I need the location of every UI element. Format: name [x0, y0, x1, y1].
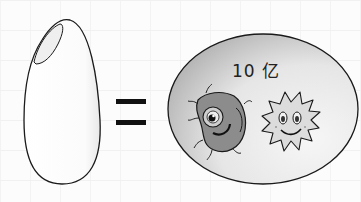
count-label: 10 亿 — [232, 57, 280, 82]
illustration-svg — [0, 0, 361, 202]
rice-grain-icon — [24, 20, 100, 184]
illustration-canvas: 10 亿 — [0, 0, 361, 202]
equals-icon — [116, 99, 146, 125]
